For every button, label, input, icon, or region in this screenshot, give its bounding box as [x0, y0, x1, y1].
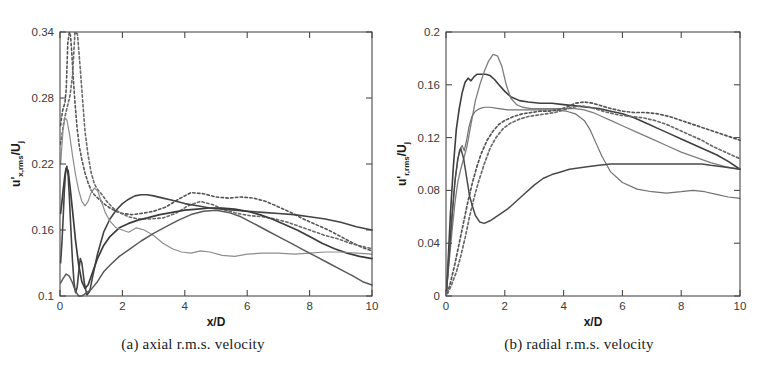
y-axis-title: u'x,rms/Uj	[9, 141, 25, 187]
series-solid-peak-2	[447, 54, 740, 290]
plot-frame	[60, 32, 372, 296]
x-tick-label: 10	[366, 300, 379, 312]
x-tick-label: 4	[182, 300, 189, 312]
y-tick-label: 0.16	[418, 79, 440, 91]
y-tick-label: 0.34	[32, 26, 55, 38]
y-axis-title-tail: /U	[9, 143, 23, 155]
y-tick-label: 0.12	[418, 132, 440, 144]
x-tick-label: 8	[306, 300, 312, 312]
panel-a: 02468100.10.160.220.280.34x/Du'x,rms/Uj …	[0, 0, 386, 385]
x-tick-label: 0	[57, 300, 63, 312]
x-tick-label: 2	[119, 300, 125, 312]
series-solid-low-dip	[447, 148, 740, 291]
series-solid-thin-light	[61, 118, 372, 257]
y-axis-title-tail-sub: j	[402, 142, 411, 145]
y-axis-title-main: u'	[395, 176, 409, 186]
x-tick-label: 0	[443, 300, 449, 312]
y-tick-label: 0.04	[418, 237, 441, 249]
y-axis-title-text: u'r,rms/Uj	[395, 142, 411, 186]
x-tick-label: 10	[734, 300, 747, 312]
caption-a: (a) axial r.m.s. velocity	[0, 336, 386, 353]
plot-a: 02468100.10.160.220.280.34x/Du'x,rms/Uj	[0, 0, 386, 330]
x-tick-label: 2	[502, 300, 508, 312]
y-axis-title: u'r,rms/Uj	[395, 142, 411, 186]
figure-container: 02468100.10.160.220.280.34x/Du'x,rms/Uj …	[0, 0, 772, 385]
y-tick-label: 0.22	[32, 158, 54, 170]
y-tick-label: 0.2	[424, 26, 440, 38]
series-solid-thick-1	[61, 166, 372, 295]
x-tick-label: 6	[619, 300, 625, 312]
y-axis-title-tail-sub: j	[16, 141, 25, 144]
x-tick-label: 8	[678, 300, 684, 312]
series-dotted-b1	[447, 102, 740, 293]
y-axis-title-text: u'x,rms/Uj	[9, 141, 25, 187]
x-tick-label: 6	[244, 300, 250, 312]
x-axis-title: x/D	[584, 315, 603, 329]
panel-b: 024681000.040.080.120.160.2x/Du'r,rms/Uj…	[386, 0, 772, 385]
x-tick-label: 4	[560, 300, 567, 312]
y-tick-label: 0.08	[418, 184, 440, 196]
y-axis-title-sub: x,rms	[16, 155, 25, 177]
y-tick-label: 0.28	[32, 92, 54, 104]
y-tick-label: 0	[434, 290, 440, 302]
series-dotted-1	[61, 32, 372, 251]
y-axis-title-sub: r,rms	[402, 156, 411, 176]
x-axis-title: x/D	[207, 315, 226, 329]
caption-b: (b) radial r.m.s. velocity	[386, 336, 772, 353]
y-tick-label: 0.1	[38, 290, 54, 302]
y-tick-label: 0.16	[32, 224, 54, 236]
plot-b: 024681000.040.080.120.160.2x/Du'r,rms/Uj	[386, 0, 772, 330]
y-axis-title-main: u'	[9, 177, 23, 187]
y-axis-title-tail: /U	[395, 144, 409, 156]
